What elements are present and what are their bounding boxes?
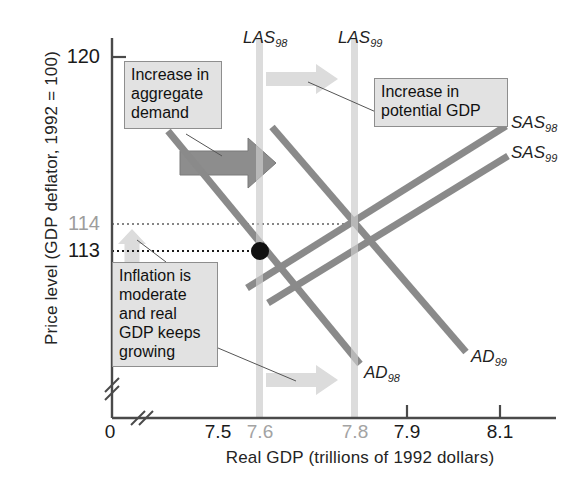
- sas99-curve: [268, 156, 508, 303]
- x-axis-label: Real GDP (trillions of 1992 dollars): [150, 448, 570, 468]
- ad99-label: AD99: [471, 347, 507, 368]
- y-tick-label-114: 114: [40, 212, 100, 235]
- leader-line-inflation-top: [137, 240, 166, 262]
- ad98-label-base: AD: [364, 363, 388, 382]
- las99-label-base: LAS: [338, 28, 370, 47]
- sas98-label: SAS98: [511, 113, 557, 134]
- y-tick-label-120: 120: [40, 45, 100, 68]
- las98-label: LAS98: [243, 28, 287, 49]
- ad98-label-sub: 98: [388, 372, 400, 384]
- ad98-label: AD98: [364, 363, 400, 384]
- callout-increase-in-aggregate-demand: Increase in aggregate demand: [124, 61, 222, 129]
- price-level-arrow: [118, 229, 146, 262]
- las-shift-arrow-bottom: [266, 365, 338, 395]
- x-tick-label-7-8: 7.8: [328, 421, 382, 443]
- x-tick-label-7-9: 7.9: [380, 421, 434, 443]
- leader-line-potential-gdp: [308, 82, 376, 112]
- y-axis-label: Price level (GDP deflator, 1992 = 100): [42, 38, 62, 358]
- ad99-label-base: AD: [471, 347, 495, 366]
- x-tick-label-8-1: 8.1: [473, 421, 527, 443]
- ad99-label-sub: 99: [495, 356, 507, 368]
- sas98-label-sub: 98: [545, 122, 557, 134]
- sas99-label-base: SAS: [511, 143, 545, 162]
- equilibrium-point-1998: [251, 242, 269, 260]
- sas98-curve: [247, 126, 506, 288]
- las98-line-overlay: [256, 40, 263, 418]
- sas99-label-sub: 99: [545, 152, 557, 164]
- as-ad-chart-figure: Price level (GDP deflator, 1992 = 100) R…: [0, 0, 580, 483]
- las99-label-sub: 99: [370, 37, 382, 49]
- y-tick-label-113: 113: [40, 239, 100, 262]
- x-tick-label-0: 0: [83, 421, 137, 443]
- callout-inflation-is-moderate: Inflation is moderate and real GDP keeps…: [112, 262, 218, 367]
- callout-increase-in-potential-gdp: Increase in potential GDP: [374, 78, 508, 127]
- las98-label-sub: 98: [275, 37, 287, 49]
- las99-line-overlay: [351, 40, 358, 418]
- x-tick-label-7-6: 7.6: [233, 421, 287, 443]
- sas98-label-base: SAS: [511, 113, 545, 132]
- las99-label: LAS99: [338, 28, 382, 49]
- las-shift-arrow-top: [266, 64, 338, 94]
- las98-label-base: LAS: [243, 28, 275, 47]
- sas99-label: SAS99: [511, 143, 557, 164]
